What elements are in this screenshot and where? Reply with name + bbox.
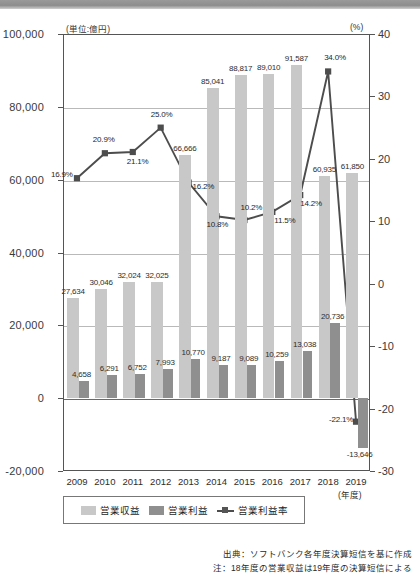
x-axis-tick-label: 2012 xyxy=(150,476,171,487)
left-axis-unit: (単位:億円) xyxy=(66,22,110,34)
bar-label-revenue: 61,850 xyxy=(341,162,364,171)
bar-operating-profit xyxy=(358,398,367,448)
y-axis-tick-left xyxy=(58,107,63,108)
bar-label-revenue: 30,046 xyxy=(89,278,112,287)
bar-label-operating-profit: 6,752 xyxy=(128,363,147,372)
y-axis-tick-label-left: 0 xyxy=(38,392,44,404)
y-axis-tick-right xyxy=(370,284,375,285)
x-axis-tick-label: 2015 xyxy=(234,476,255,487)
bar-revenue xyxy=(95,289,107,398)
y-axis-tick-left xyxy=(58,471,63,472)
y-axis-tick-right xyxy=(370,34,375,35)
margin-line-swatch-icon xyxy=(217,506,234,515)
bar-operating-profit xyxy=(330,323,339,399)
y-axis-tick-label-right: -20 xyxy=(378,403,394,415)
margin-data-label: -22.1% xyxy=(329,415,353,424)
y-axis-tick-right xyxy=(370,221,375,222)
bar-label-operating-profit: 9,089 xyxy=(239,354,258,363)
y-axis-tick-label-left: 20,000 xyxy=(9,319,44,331)
bar-operating-profit xyxy=(135,374,144,399)
x-axis-tick-label: 2019 xyxy=(345,476,366,487)
bar-label-operating-profit: 7,993 xyxy=(156,358,175,367)
x-axis-tick-label: 2017 xyxy=(290,476,311,487)
y-axis-tick-left xyxy=(58,325,63,326)
y-axis-tick-label-left: 100,000 xyxy=(3,28,44,40)
legend-item-revenue: 営業収益 xyxy=(81,503,140,517)
x-axis-tick-label: 2011 xyxy=(123,476,143,487)
bar-operating-profit xyxy=(107,375,116,398)
y-axis-tick-right xyxy=(370,96,375,97)
margin-data-label: 16.9% xyxy=(51,170,73,179)
bar-label-operating-profit: 4,658 xyxy=(72,370,91,379)
x-axis-unit-label: (年度) xyxy=(338,488,362,500)
source-text: 出典：ソフトバンク各年度決算短信を基に作成 xyxy=(223,547,412,559)
chart-legend: 営業収益 営業利益 営業利益率 xyxy=(63,496,305,524)
chart-stage: (単位:億円) (%) 営業収益 営業利益 営業利益率 出典：ソフトバンク各年度… xyxy=(0,0,420,588)
bar-label-revenue: 27,634 xyxy=(62,287,85,296)
bar-revenue xyxy=(179,155,191,398)
bar-label-operating-profit: 13,038 xyxy=(293,340,316,349)
bar-label-revenue: 85,041 xyxy=(201,77,224,86)
bar-revenue xyxy=(151,282,163,399)
y-axis-tick-label-right: -30 xyxy=(378,465,394,477)
bar-label-revenue: 32,025 xyxy=(145,271,168,280)
y-axis-tick-label-right: 40 xyxy=(378,28,390,40)
y-axis-tick-left xyxy=(58,253,63,254)
margin-data-point-marker xyxy=(130,149,136,155)
bar-label-operating-profit: 6,291 xyxy=(100,364,119,373)
margin-data-label: 11.5% xyxy=(274,216,295,225)
margin-data-label: 10.8% xyxy=(207,220,229,229)
y-axis-tick-left xyxy=(58,34,63,35)
bar-label-revenue: 66,666 xyxy=(173,144,196,153)
y-axis-tick-right xyxy=(370,159,375,160)
bar-label-revenue: 88,817 xyxy=(229,64,252,73)
margin-data-label: 14.2% xyxy=(300,199,322,208)
margin-data-label: 34.0% xyxy=(324,53,346,62)
bar-label-operating-profit: 10,770 xyxy=(181,348,204,357)
x-axis-tick-label: 2013 xyxy=(178,476,199,487)
margin-data-label: 21.1% xyxy=(127,157,149,166)
bar-operating-profit xyxy=(79,381,88,398)
legend-label-revenue: 営業収益 xyxy=(100,503,140,517)
x-axis-tick-label: 2014 xyxy=(206,476,227,487)
bar-label-revenue: 89,010 xyxy=(257,63,280,72)
margin-data-label: 25.0% xyxy=(151,110,173,119)
y-axis-tick-right xyxy=(370,471,375,472)
y-axis-tick-label-right: 0 xyxy=(378,278,384,290)
margin-data-point-marker xyxy=(102,150,108,156)
margin-data-point-marker xyxy=(325,68,331,74)
note-text: 注：18年度の営業収益は19年度の決算短信による xyxy=(213,561,412,573)
legend-label-profit: 営業利益 xyxy=(168,503,208,517)
y-axis-tick-label-right: 10 xyxy=(378,215,390,227)
legend-item-profit: 営業利益 xyxy=(149,503,208,517)
bar-operating-profit xyxy=(275,361,284,398)
margin-data-point-marker xyxy=(74,175,80,181)
x-axis-tick-label: 2018 xyxy=(318,476,339,487)
y-axis-tick-label-left: 80,000 xyxy=(9,101,44,113)
bar-revenue xyxy=(346,173,358,398)
y-axis-tick-label-right: -10 xyxy=(378,340,394,352)
x-axis-tick-label: 2009 xyxy=(66,476,87,487)
y-axis-tick-label-left: -20,000 xyxy=(5,465,44,477)
bar-operating-profit xyxy=(303,351,312,398)
bar-label-revenue: 32,024 xyxy=(117,271,140,280)
revenue-swatch-icon xyxy=(81,506,96,515)
y-axis-tick-label-right: 30 xyxy=(378,90,390,102)
y-axis-tick-left xyxy=(58,398,63,399)
x-axis-tick-label: 2010 xyxy=(94,476,115,487)
y-axis-tick-right xyxy=(370,346,375,347)
right-axis-unit: (%) xyxy=(350,22,363,32)
y-axis-tick-label-left: 40,000 xyxy=(9,247,44,259)
x-axis-tick-label: 2016 xyxy=(262,476,283,487)
y-axis-tick-right xyxy=(370,409,375,410)
bar-revenue xyxy=(319,176,331,398)
bar-label-operating-profit: 20,736 xyxy=(321,312,344,321)
bar-label-revenue: 60,935 xyxy=(313,165,336,174)
bar-label-revenue: 91,587 xyxy=(285,54,308,63)
margin-data-label: 16.2% xyxy=(193,182,215,191)
bar-revenue xyxy=(207,88,219,398)
bar-operating-profit xyxy=(247,365,256,398)
bar-label-operating-profit: 9,187 xyxy=(211,354,230,363)
bar-operating-profit xyxy=(191,359,200,398)
margin-data-label: 20.9% xyxy=(93,135,115,144)
